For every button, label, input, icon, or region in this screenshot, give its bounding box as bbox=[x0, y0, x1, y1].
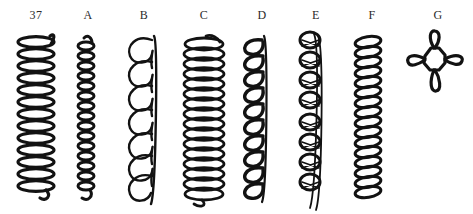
figure-label-f: F bbox=[352, 8, 392, 23]
plate-37: 37 A bbox=[0, 0, 473, 214]
figure-label-e: E bbox=[296, 8, 336, 23]
figure-art-f bbox=[348, 30, 392, 210]
figure-art-e bbox=[290, 30, 334, 214]
rosette-drawing-g bbox=[398, 30, 470, 110]
figure-label-d: D bbox=[242, 8, 282, 23]
coil-drawing-c bbox=[176, 30, 234, 210]
figure-art-a bbox=[70, 30, 106, 210]
figure-label-a: A bbox=[68, 8, 108, 23]
figure-label-c: C bbox=[184, 8, 224, 23]
figure-art-c bbox=[176, 30, 234, 210]
coil-drawing-37 bbox=[10, 30, 66, 210]
figure-label-b: B bbox=[124, 8, 164, 23]
figure-art-g bbox=[398, 30, 470, 110]
figure-art-d bbox=[234, 30, 278, 210]
coil-drawing-f bbox=[348, 30, 392, 210]
figure-art-b bbox=[118, 30, 170, 210]
coil-drawing-e bbox=[290, 30, 334, 214]
coil-drawing-d bbox=[234, 30, 278, 210]
figure-label-g: G bbox=[418, 8, 458, 23]
figure-label-37: 37 bbox=[16, 8, 56, 23]
coil-drawing-a bbox=[70, 30, 106, 210]
figure-art-37 bbox=[10, 30, 66, 210]
coil-drawing-b bbox=[118, 30, 170, 210]
